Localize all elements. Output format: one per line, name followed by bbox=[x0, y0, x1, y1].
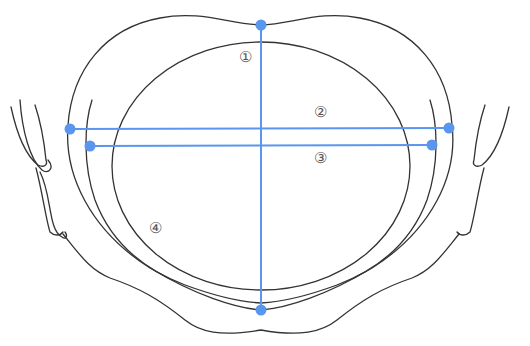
endpoint-dot-1-bottom bbox=[256, 305, 267, 316]
label-2: ② bbox=[314, 103, 327, 121]
label-1: ① bbox=[239, 48, 252, 66]
endpoint-dot-3-right bbox=[427, 140, 438, 151]
label-4: ④ bbox=[149, 219, 162, 237]
right-lower-contour bbox=[457, 168, 484, 235]
right-inner-wing-outline bbox=[261, 100, 436, 303]
svg-text:③: ③ bbox=[314, 149, 327, 167]
svg-text:④: ④ bbox=[149, 219, 162, 237]
measurement-line-2 bbox=[70, 128, 449, 129]
left-hip-outline bbox=[11, 105, 47, 166]
right-hip-outline bbox=[473, 105, 509, 166]
svg-text:②: ② bbox=[314, 103, 327, 121]
endpoint-dot-3-left bbox=[85, 141, 96, 152]
svg-text:①: ① bbox=[239, 48, 252, 66]
endpoint-dot-2-right bbox=[444, 123, 455, 134]
endpoint-dot-2-left bbox=[65, 124, 76, 135]
left-inner-wing-outline bbox=[86, 100, 261, 303]
label-3: ③ bbox=[314, 149, 327, 167]
endpoint-dot-1-top bbox=[256, 20, 267, 31]
left-lower-contour bbox=[36, 168, 63, 235]
pelvis-diagram: ① ② ③ ④ bbox=[0, 0, 530, 346]
measurement-line-3 bbox=[90, 145, 432, 146]
